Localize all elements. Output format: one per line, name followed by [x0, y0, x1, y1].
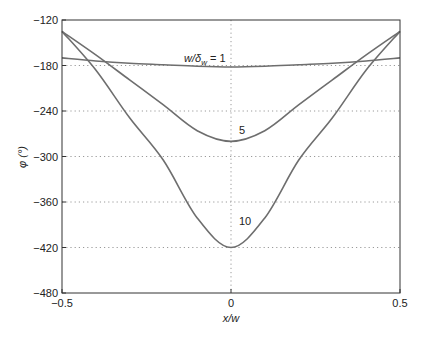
y-tick-label: −120: [33, 14, 58, 26]
x-axis-ticks: −0.500.5: [51, 289, 408, 309]
curve-label-1: w/δw = 1: [184, 52, 226, 67]
data-curves: [62, 31, 400, 247]
grid-lines: [62, 20, 400, 293]
x-tick-label: 0: [228, 297, 234, 309]
y-tick-label: −240: [33, 105, 58, 117]
x-tick-label: −0.5: [51, 297, 73, 309]
curve-label-5: 5: [239, 124, 245, 136]
curve-10: [62, 31, 400, 247]
x-axis-label: x/w: [222, 312, 241, 324]
y-axis-label: φ (°): [16, 146, 28, 168]
y-tick-label: −300: [33, 151, 58, 163]
y-tick-label: −420: [33, 242, 58, 254]
y-axis-ticks: −120−180−240−300−360−420−480: [33, 14, 66, 299]
curve-label-1-main: w/δ: [184, 52, 202, 64]
y-tick-label: −360: [33, 196, 58, 208]
curve-5: [62, 31, 400, 141]
x-tick-label: 0.5: [392, 297, 407, 309]
line-chart: −120−180−240−300−360−420−480 −0.500.5 x/…: [0, 0, 425, 338]
curve-label-1-tail: = 1: [207, 52, 226, 64]
y-tick-label: −180: [33, 60, 58, 72]
curve-label-10: 10: [239, 215, 251, 227]
